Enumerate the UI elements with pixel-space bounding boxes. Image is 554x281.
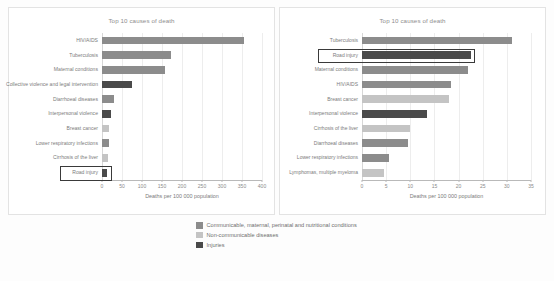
- x-tick-label: 30: [504, 183, 510, 189]
- bar-row[interactable]: Maternal conditions: [102, 62, 262, 77]
- legend-item[interactable]: Communicable, maternal, perinatal and nu…: [196, 222, 357, 229]
- x-tick-label: 20: [456, 183, 462, 189]
- chart-legend: Communicable, maternal, perinatal and nu…: [0, 222, 554, 248]
- bar[interactable]: [102, 139, 109, 147]
- chart-title-right: Top 10 causes of death: [280, 17, 545, 24]
- bar[interactable]: [362, 169, 384, 177]
- x-tick-label: 200: [178, 183, 186, 189]
- bar[interactable]: [102, 110, 111, 118]
- gridline: [531, 33, 532, 180]
- x-axis-label-right: Deaths per 100 000 population: [362, 193, 531, 199]
- bar-rows-left: HIV/AIDSTuberculosisMaternal conditionsC…: [102, 33, 262, 180]
- category-label: Diarrhoeal diseases: [314, 141, 358, 146]
- bar[interactable]: [102, 37, 244, 45]
- category-label: Tuberculosis: [330, 38, 358, 43]
- x-axis-label-left: Deaths per 100 000 population: [102, 193, 262, 199]
- bar[interactable]: [102, 51, 171, 59]
- category-label: Cirrhosis of the liver: [314, 126, 358, 131]
- bar-rows-right: TuberculosisRoad injuryMaternal conditio…: [362, 33, 531, 180]
- plot-area-right: TuberculosisRoad injuryMaternal conditio…: [362, 33, 531, 180]
- bar[interactable]: [362, 51, 471, 59]
- legend-label: Injuries: [207, 242, 225, 248]
- x-tick-label: 350: [238, 183, 246, 189]
- legend-label: Communicable, maternal, perinatal and nu…: [207, 222, 357, 228]
- bar[interactable]: [362, 66, 468, 74]
- bar-row[interactable]: Lower respiratory infections: [102, 136, 262, 151]
- bar-row[interactable]: Diarrhoeal diseases: [102, 92, 262, 107]
- x-axis-line-left: [102, 180, 262, 181]
- chart-panel-right: Top 10 causes of death TuberculosisRoad …: [279, 7, 546, 215]
- bar[interactable]: [362, 139, 408, 147]
- legend-item[interactable]: Injuries: [196, 242, 225, 249]
- bar-row[interactable]: Diarrhoeal diseases: [362, 136, 531, 151]
- bar-row[interactable]: Breast cancer: [102, 121, 262, 136]
- bar[interactable]: [102, 125, 109, 133]
- category-label: Road injury: [333, 53, 358, 58]
- legend-swatch: [196, 242, 203, 249]
- legend-item[interactable]: Non-communicable diseases: [196, 232, 278, 239]
- bar-row[interactable]: Interpersonal violence: [102, 107, 262, 122]
- category-label: Lymphomas, multiple myeloma: [289, 170, 358, 175]
- bar-row[interactable]: HIV/AIDS: [102, 33, 262, 48]
- bar-row[interactable]: Road injury: [362, 48, 531, 63]
- category-label: Maternal conditions: [54, 67, 98, 72]
- bar-row[interactable]: Maternal conditions: [362, 62, 531, 77]
- legend-swatch: [196, 222, 203, 229]
- category-label: Diarrhoeal diseases: [53, 97, 98, 102]
- bar[interactable]: [102, 169, 107, 177]
- bar[interactable]: [362, 81, 451, 89]
- bar[interactable]: [362, 37, 512, 45]
- x-tick-label: 0: [361, 183, 364, 189]
- category-label: Cirrhosis of the liver: [53, 155, 98, 160]
- gridline: [262, 33, 263, 180]
- category-label: HIV/AIDS: [337, 82, 358, 87]
- bar[interactable]: [102, 81, 132, 89]
- bar[interactable]: [362, 95, 449, 103]
- category-label: Collective violence and legal interventi…: [6, 82, 98, 87]
- x-axis-ticks-right: 05101520253035: [362, 183, 531, 193]
- bar-row[interactable]: HIV/AIDS: [362, 77, 531, 92]
- category-label: Breast cancer: [327, 97, 358, 102]
- bar-row[interactable]: Lymphomas, multiple myeloma: [362, 165, 531, 180]
- category-label: Breast cancer: [67, 126, 98, 131]
- bar[interactable]: [362, 125, 410, 133]
- x-tick-label: 35: [528, 183, 534, 189]
- bar-row[interactable]: Road injury: [102, 165, 262, 180]
- category-label: Lower respiratory infections: [36, 141, 98, 146]
- bar-row[interactable]: Tuberculosis: [102, 48, 262, 63]
- bar[interactable]: [102, 154, 108, 162]
- bar[interactable]: [102, 95, 114, 103]
- x-tick-label: 50: [119, 183, 125, 189]
- chart-title-left: Top 10 causes of death: [9, 17, 274, 24]
- plot-area-left: HIV/AIDSTuberculosisMaternal conditionsC…: [102, 33, 262, 180]
- category-label: Maternal conditions: [315, 67, 358, 72]
- category-label: Lower respiratory infections: [297, 155, 358, 160]
- x-tick-label: 250: [198, 183, 206, 189]
- bar-row[interactable]: Cirrhosis of the liver: [102, 151, 262, 166]
- bar[interactable]: [362, 154, 389, 162]
- bar[interactable]: [362, 110, 427, 118]
- x-tick-label: 400: [258, 183, 266, 189]
- x-tick-label: 25: [480, 183, 486, 189]
- category-label: Road injury: [72, 170, 98, 175]
- x-tick-label: 15: [432, 183, 438, 189]
- legend-swatch: [196, 232, 203, 239]
- x-tick-label: 100: [138, 183, 146, 189]
- bar-row[interactable]: Tuberculosis: [362, 33, 531, 48]
- x-tick-label: 10: [408, 183, 414, 189]
- x-axis-line-right: [362, 180, 531, 181]
- bar-row[interactable]: Interpersonal violence: [362, 107, 531, 122]
- category-label: Interpersonal violence: [48, 111, 98, 116]
- x-tick-label: 300: [218, 183, 226, 189]
- legend-label: Non-communicable diseases: [207, 232, 279, 238]
- chart-panels: Top 10 causes of death HIV/AIDSTuberculo…: [8, 7, 546, 215]
- chart-panel-left: Top 10 causes of death HIV/AIDSTuberculo…: [8, 7, 275, 215]
- bar-row[interactable]: Lower respiratory infections: [362, 151, 531, 166]
- bar-row[interactable]: Cirrhosis of the liver: [362, 121, 531, 136]
- x-tick-label: 5: [385, 183, 388, 189]
- bar-row[interactable]: Breast cancer: [362, 92, 531, 107]
- bar[interactable]: [102, 66, 165, 74]
- x-tick-label: 150: [158, 183, 166, 189]
- bar-row[interactable]: Collective violence and legal interventi…: [102, 77, 262, 92]
- x-axis-ticks-left: 050100150200250300350400: [102, 183, 262, 193]
